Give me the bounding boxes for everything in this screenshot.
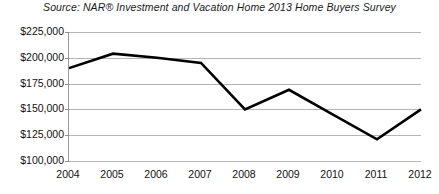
gridline	[69, 161, 421, 162]
x-axis-labels: 200420052006200720082009201020112012	[68, 168, 420, 186]
y-axis-tick-label: $100,000	[2, 154, 64, 166]
y-axis-tick-label: $200,000	[2, 51, 64, 63]
x-axis-tick-label: 2005	[90, 168, 134, 180]
y-axis-tick-label: $125,000	[2, 128, 64, 140]
y-axis-tick-label: $150,000	[2, 102, 64, 114]
line-series	[69, 32, 421, 161]
chart-title: Source: NAR® Investment and Vacation Hom…	[0, 1, 439, 13]
x-axis-tick-label: 2008	[222, 168, 266, 180]
y-tick	[65, 161, 69, 162]
x-axis-tick-label: 2009	[266, 168, 310, 180]
chart-container: Source: NAR® Investment and Vacation Hom…	[0, 0, 439, 194]
x-axis-tick-label: 2010	[310, 168, 354, 180]
x-axis-tick-label: 2004	[46, 168, 90, 180]
series-polyline	[69, 54, 421, 140]
x-axis-tick-label: 2006	[134, 168, 178, 180]
y-axis-tick-label: $225,000	[2, 25, 64, 37]
x-axis-tick-label: 2007	[178, 168, 222, 180]
plot-area	[68, 32, 421, 162]
x-axis-tick-label: 2012	[398, 168, 439, 180]
x-axis-tick-label: 2011	[354, 168, 398, 180]
y-axis-tick-label: $175,000	[2, 77, 64, 89]
y-axis-labels: $225,000$200,000$175,000$150,000$125,000…	[0, 32, 64, 161]
